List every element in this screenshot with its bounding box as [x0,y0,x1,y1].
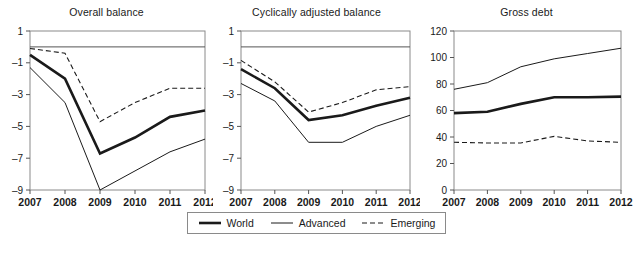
y-axis-tick-label: –5 [223,121,235,132]
x-axis-tick-label: 2011 [159,196,182,208]
y-axis-tick-label: –1 [223,57,235,68]
y-axis-tick-label: 120 [430,26,447,37]
plot-frame [30,31,205,190]
series-line-advanced [241,83,410,142]
chart-overall-balance: 1–1–3–5–7–9200720082009201020112012 [0,0,213,210]
legend-entry-emerging: Emerging [361,217,435,229]
y-axis-tick-label: –1 [12,57,24,68]
y-axis-tick-label: 60 [436,105,448,116]
x-axis-tick-label: 2007 [229,196,253,208]
x-axis-tick-label: 2008 [53,196,77,208]
x-axis-tick-label: 2011 [365,196,388,208]
plot-frame [241,31,410,190]
series-line-world [241,69,410,120]
series-line-advanced [30,68,205,190]
legend-label: World [227,217,254,229]
y-axis-tick-label: 20 [436,158,448,169]
y-axis-tick-label: –9 [223,185,235,196]
legend-swatch-advanced [270,218,294,228]
y-axis-tick-label: 100 [430,52,447,63]
panel-cyclically-adjusted-balance: Cyclically adjusted balance 1–1–3–5–7–92… [213,0,420,210]
panel-gross-debt: Gross debt 12010080604020020072008200920… [420,0,633,210]
y-axis-tick-label: –5 [12,121,24,132]
chart-legend: WorldAdvancedEmerging [187,212,447,234]
y-axis-tick-label: 40 [436,132,448,143]
x-axis-tick-label: 2012 [398,196,420,208]
legend-label: Advanced [299,217,346,229]
series-line-emerging [454,136,621,143]
series-line-emerging [30,48,205,121]
x-axis-tick-label: 2007 [18,196,42,208]
y-axis-tick-label: –3 [12,89,24,100]
legend-swatch-world [198,218,222,228]
figure-panel-chart: Overall balance 1–1–3–5–7–92007200820092… [0,0,633,257]
x-axis-tick-label: 2008 [263,196,287,208]
x-axis-tick-label: 2012 [193,196,213,208]
y-axis-tick-label: –3 [223,89,235,100]
y-axis-tick-label: 0 [441,185,447,196]
legend-entry-world: World [198,217,254,229]
x-axis-tick-label: 2012 [609,196,633,208]
y-axis-tick-label: 1 [228,26,234,37]
x-axis-tick-label: 2008 [476,196,500,208]
x-axis-tick-label: 2009 [88,196,112,208]
legend-label: Emerging [390,217,435,229]
chart-gross-debt: 120100806040200200720082009201020112012 [420,0,633,210]
y-axis-tick-label: –7 [223,153,235,164]
x-axis-tick-label: 2010 [123,196,147,208]
x-axis-tick-label: 2009 [509,196,533,208]
y-axis-tick-label: –7 [12,153,24,164]
y-axis-tick-label: 80 [436,79,448,90]
legend-wrapper: WorldAdvancedEmerging [0,212,633,234]
series-line-advanced [454,48,621,89]
x-axis-tick-label: 2010 [331,196,355,208]
x-axis-tick-label: 2007 [442,196,466,208]
x-axis-tick-label: 2009 [297,196,321,208]
panel-row: Overall balance 1–1–3–5–7–92007200820092… [0,0,633,210]
chart-cyclically-adjusted-balance: 1–1–3–5–7–9200720082009201020112012 [213,0,420,210]
series-line-world [30,55,205,154]
y-axis-tick-label: 1 [17,26,23,37]
plot-frame [454,31,621,190]
x-axis-tick-label: 2011 [576,196,599,208]
series-line-world [454,97,621,114]
y-axis-tick-label: –9 [12,185,24,196]
panel-overall-balance: Overall balance 1–1–3–5–7–92007200820092… [0,0,213,210]
x-axis-tick-label: 2010 [543,196,567,208]
legend-entry-advanced: Advanced [270,217,346,229]
legend-swatch-emerging [361,218,385,228]
